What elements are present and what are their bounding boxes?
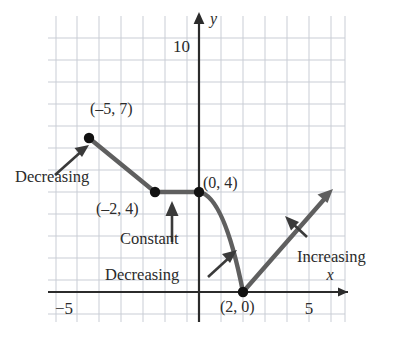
x-tick-label-5: 5 — [305, 299, 314, 318]
point-label-neg5-7: (–5, 7) — [90, 100, 133, 118]
graph-figure: (–5, 7) (–2, 4) (0, 4) (2, 0) −5 5 10 y … — [0, 0, 400, 337]
graph-svg: (–5, 7) (–2, 4) (0, 4) (2, 0) −5 5 10 y … — [0, 0, 400, 337]
y-axis-label: y — [208, 10, 218, 28]
annotation-decreasing-lower: Decreasing — [105, 265, 179, 284]
x-tick-label-neg5: −5 — [55, 299, 73, 318]
x-axis-label: x — [325, 266, 333, 283]
y-tick-label-10: 10 — [173, 37, 190, 56]
point-label-0-4: (0, 4) — [203, 174, 238, 192]
point-label-neg2-4: (–2, 4) — [96, 200, 139, 218]
point-marker-neg2-4 — [150, 187, 160, 197]
annotation-constant: Constant — [120, 229, 179, 248]
annotation-increasing: Increasing — [297, 247, 366, 266]
annotation-decreasing-upper: Decreasing — [15, 167, 89, 186]
point-label-2-0: (2, 0) — [220, 298, 255, 316]
point-marker-neg5-7 — [84, 133, 94, 143]
point-marker-2-0 — [238, 287, 248, 297]
